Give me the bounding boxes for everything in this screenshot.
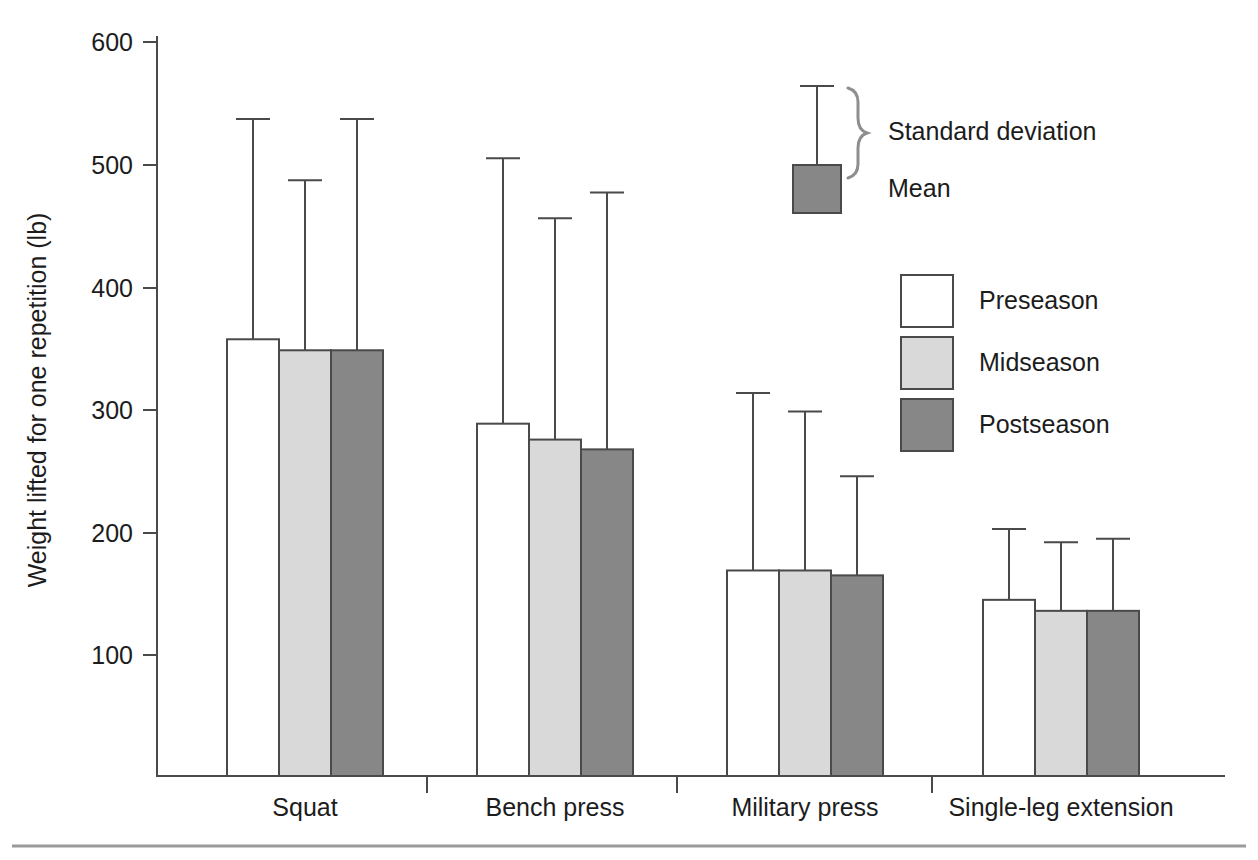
y-tick-label-400: 400 [91,274,133,302]
legend-label-preseason: Preseason [979,286,1099,314]
brace-icon [848,88,867,178]
bar-preseason-military-press[interactable] [727,570,779,776]
bar-chart: Weight lifted for one repetition (lb) 60… [0,0,1258,860]
legend-swatch-postseason[interactable] [901,399,953,451]
y-axis-ticks: 600 500 400 300 200 100 [91,28,157,669]
annotation-label-standard-deviation: Standard deviation [888,117,1096,145]
x-axis-group-separators [427,776,932,793]
bar-postseason-bench-press[interactable] [581,449,633,776]
bars-layer [227,119,1139,776]
bar-postseason-single-leg-extension[interactable] [1087,611,1139,776]
legend-label-postseason: Postseason [979,410,1110,438]
bar-midseason-bench-press[interactable] [529,440,581,776]
annotation-legend: Standard deviation Mean [793,86,1096,213]
chart-figure: Weight lifted for one repetition (lb) 60… [0,0,1258,860]
legend-label-midseason: Midseason [979,348,1100,376]
bar-midseason-military-press[interactable] [779,570,831,776]
sample-mean-square [793,165,841,213]
series-legend: Preseason Midseason Postseason [901,275,1110,451]
bar-preseason-squat[interactable] [227,339,279,776]
bar-midseason-squat[interactable] [279,350,331,776]
x-axis-label-single-leg-extension: Single-leg extension [948,793,1173,821]
y-tick-label-200: 200 [91,519,133,547]
annotation-label-mean: Mean [888,174,951,202]
y-tick-label-500: 500 [91,151,133,179]
x-axis-label-bench-press: Bench press [486,793,625,821]
bar-postseason-squat[interactable] [331,350,383,776]
x-axis-category-labels: SquatBench pressMilitary pressSingle-leg… [272,793,1173,821]
y-axis-title: Weight lifted for one repetition (lb) [23,213,51,588]
legend-swatch-preseason[interactable] [901,275,953,327]
x-axis-label-squat: Squat [272,793,337,821]
bar-postseason-military-press[interactable] [831,575,883,776]
bar-preseason-bench-press[interactable] [477,424,529,776]
y-tick-label-300: 300 [91,396,133,424]
y-tick-label-100: 100 [91,641,133,669]
y-tick-label-600: 600 [91,28,133,56]
bar-preseason-single-leg-extension[interactable] [983,600,1035,776]
bar-midseason-single-leg-extension[interactable] [1035,611,1087,776]
x-axis-label-military-press: Military press [731,793,878,821]
legend-swatch-midseason[interactable] [901,337,953,389]
